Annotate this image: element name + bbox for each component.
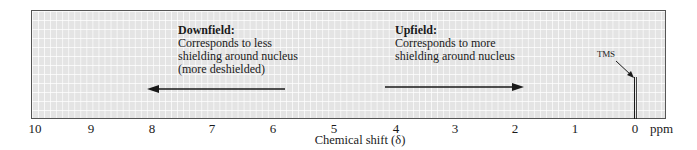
annotation-overlay [0, 0, 697, 150]
upfield-arrow-icon [385, 83, 524, 91]
x-axis-label: Chemical shift (δ) [0, 133, 697, 148]
tms-peak [635, 77, 637, 119]
tms-pointer-arrow-icon [616, 61, 634, 78]
downfield-arrow-icon [147, 85, 285, 93]
